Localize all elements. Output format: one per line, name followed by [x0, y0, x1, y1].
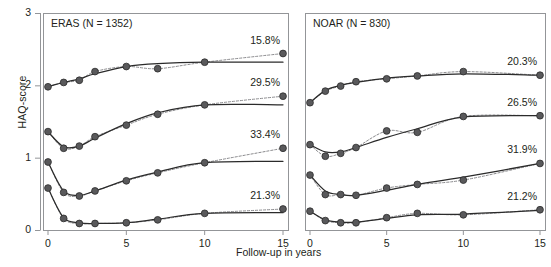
data-point-noar-3-0	[307, 208, 314, 215]
data-point-eras-3-5	[123, 219, 130, 226]
data-point-noar-1-15	[537, 112, 544, 119]
data-point-noar-2-2	[337, 191, 344, 198]
data-point-noar-2-0	[307, 172, 314, 179]
series-fitted-eras-1	[48, 104, 283, 148]
data-point-eras-2-3	[92, 188, 99, 195]
data-point-eras-3-0	[45, 185, 52, 192]
data-point-noar-2-1	[322, 191, 329, 198]
data-point-noar-0-15	[537, 72, 544, 79]
x-axis-tick-eras-10: 10	[195, 237, 215, 249]
data-point-eras-2-5	[123, 177, 130, 184]
data-point-eras-1-10	[201, 101, 208, 108]
data-point-eras-2-15	[280, 145, 287, 152]
data-point-eras-0-10	[201, 59, 208, 66]
x-axis-tick-noar-5: 5	[377, 237, 397, 249]
data-point-noar-3-15	[537, 206, 544, 213]
data-point-noar-3-1	[322, 217, 329, 224]
data-point-noar-1-2	[337, 150, 344, 157]
y-axis-tick-2: 2	[17, 78, 31, 90]
data-point-eras-3-3	[92, 220, 99, 227]
data-point-noar-1-5	[383, 128, 390, 135]
data-point-noar-0-1	[322, 88, 329, 95]
data-point-noar-3-10	[460, 211, 467, 218]
series-label-noar-3: 21.2%	[479, 190, 537, 202]
figure-haq-trajectories: HAQ-score Follow-up in years 0123ERAS (N…	[0, 0, 551, 267]
x-axis-tick-eras-15: 15	[273, 237, 293, 249]
data-point-eras-0-5	[123, 63, 130, 70]
data-point-noar-0-7	[414, 73, 421, 80]
data-point-eras-0-0	[45, 83, 52, 90]
data-point-noar-0-5	[383, 75, 390, 82]
data-point-noar-2-5	[383, 185, 390, 192]
data-point-noar-1-1	[322, 153, 329, 160]
data-point-noar-1-0	[307, 141, 314, 148]
data-point-noar-2-10	[460, 177, 467, 184]
data-point-noar-0-0	[307, 99, 314, 106]
data-point-noar-2-7	[414, 181, 421, 188]
data-point-noar-1-10	[460, 113, 467, 120]
data-point-eras-0-3	[92, 68, 99, 75]
data-point-eras-2-10	[201, 159, 208, 166]
data-point-eras-1-1	[60, 145, 67, 152]
data-point-noar-0-3	[353, 78, 360, 85]
series-label-eras-0: 15.8%	[222, 34, 280, 46]
data-point-eras-3-1	[60, 215, 67, 222]
data-point-eras-2-1	[60, 189, 67, 196]
y-axis-title: HAQ-score	[16, 62, 28, 142]
series-label-noar-1: 26.5%	[479, 96, 537, 108]
panel-title-noar: NOAR (N = 830)	[313, 17, 390, 29]
y-axis-tick-3: 3	[17, 6, 31, 18]
data-point-noar-0-2	[337, 83, 344, 90]
data-point-eras-3-7	[154, 216, 161, 223]
data-point-eras-1-3	[92, 133, 99, 140]
data-point-noar-1-3	[353, 144, 360, 151]
data-point-eras-2-7	[154, 169, 161, 176]
series-fitted-noar-3	[310, 210, 540, 222]
data-point-eras-1-15	[280, 93, 287, 100]
series-label-eras-3: 21.3%	[222, 189, 280, 201]
data-point-eras-3-10	[201, 210, 208, 217]
data-point-noar-3-5	[383, 214, 390, 221]
data-point-noar-1-7	[414, 129, 421, 136]
x-axis-tick-eras-5: 5	[116, 237, 136, 249]
data-point-noar-3-3	[353, 219, 360, 226]
series-label-eras-1: 29.5%	[222, 76, 280, 88]
data-point-noar-0-10	[460, 68, 467, 75]
data-point-eras-2-2	[76, 193, 83, 200]
x-axis-tick-noar-15: 15	[530, 237, 550, 249]
x-axis-tick-noar-0: 0	[300, 237, 320, 249]
series-label-noar-2: 31.9%	[479, 143, 537, 155]
panel-title-eras: ERAS (N = 1352)	[51, 17, 132, 29]
data-point-eras-0-15	[280, 50, 287, 57]
data-point-eras-1-7	[154, 111, 161, 118]
data-point-noar-3-7	[414, 210, 421, 217]
series-label-eras-2: 33.4%	[222, 128, 280, 140]
y-axis-tick-1: 1	[17, 151, 31, 163]
data-point-eras-0-2	[76, 77, 83, 84]
data-point-eras-1-0	[45, 128, 52, 135]
data-point-noar-3-2	[337, 219, 344, 226]
data-point-eras-0-1	[60, 79, 67, 86]
data-point-eras-2-0	[45, 159, 52, 166]
data-point-eras-1-2	[76, 143, 83, 150]
data-point-eras-3-2	[76, 220, 83, 227]
data-point-noar-2-15	[537, 160, 544, 167]
data-point-eras-1-5	[123, 122, 130, 129]
data-point-eras-0-7	[154, 65, 161, 72]
y-axis-tick-0: 0	[17, 223, 31, 235]
data-point-eras-3-15	[280, 206, 287, 213]
series-label-noar-0: 20.3%	[479, 55, 537, 67]
x-axis-tick-noar-10: 10	[453, 237, 473, 249]
x-axis-tick-eras-0: 0	[38, 237, 58, 249]
data-point-noar-2-3	[353, 192, 360, 199]
